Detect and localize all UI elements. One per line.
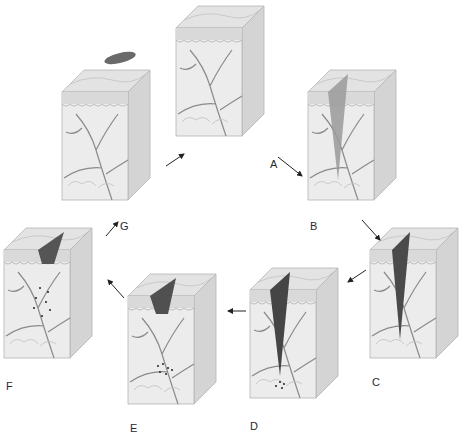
arrow-e-to-f [108, 280, 124, 298]
arrow-a-to-b [278, 157, 302, 176]
arrow-c-to-d [348, 270, 366, 282]
flow-arrows [0, 0, 476, 439]
arrow-g-to-a [166, 154, 184, 166]
arrow-f-to-g [106, 222, 118, 236]
arrow-b-to-c [362, 220, 380, 240]
